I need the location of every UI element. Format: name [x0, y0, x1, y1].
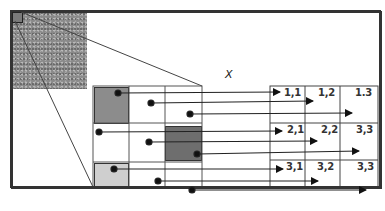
diagram-lines [0, 0, 385, 211]
output-cell-label: 3,1 [286, 161, 303, 172]
output-cell-label: 1,1 [284, 87, 301, 98]
output-cell-label: 1,2 [318, 87, 335, 98]
output-cell-label: 3,3 [357, 161, 374, 172]
output-cell-label: 3,3 [356, 124, 373, 135]
output-cell-label: 1.3 [355, 87, 372, 98]
output-cell-label: 2,2 [321, 124, 338, 135]
output-cell-label: 3,2 [317, 161, 334, 172]
output-cell-label: 2,1 [287, 124, 304, 135]
